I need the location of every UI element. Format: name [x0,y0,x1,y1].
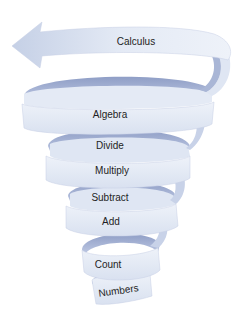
label-count: Count [95,259,122,270]
label-subtract: Subtract [91,192,128,203]
label-algebra: Algebra [93,109,128,120]
band-algebra-inner [24,86,212,109]
label-divide: Divide [96,140,124,151]
spiral-diagram: Calculus Algebra Divide Multiply Subtrac… [0,0,242,317]
label-multiply: Multiply [95,165,129,176]
label-add: Add [102,216,120,227]
label-calculus: Calculus [117,36,155,47]
